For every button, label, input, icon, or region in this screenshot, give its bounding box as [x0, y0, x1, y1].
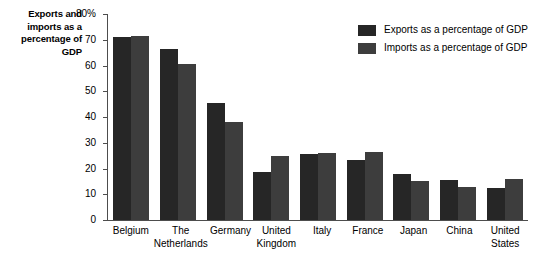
- bar-exports[interactable]: [440, 180, 458, 220]
- y-axis-tick-label: 60: [85, 59, 96, 72]
- y-axis-tick-label: 50: [85, 84, 96, 97]
- y-axis-tick-label: 40: [85, 110, 96, 123]
- bar-imports[interactable]: [318, 153, 336, 220]
- bar-group: [248, 14, 295, 220]
- x-axis-category-label: Germany: [208, 225, 254, 250]
- x-axis-category-label: United States: [482, 225, 528, 250]
- y-axis-tick-label: 0: [90, 213, 96, 226]
- bar-group: [201, 14, 248, 220]
- bar-groups: [108, 14, 528, 220]
- y-axis-tick-label: 20: [85, 162, 96, 175]
- bar-chart-figure: Exports and imports as a percentage of G…: [0, 0, 535, 265]
- bar-imports[interactable]: [178, 64, 196, 220]
- x-axis-category-label: Japan: [391, 225, 437, 250]
- x-axis-category-label: Italy: [299, 225, 345, 250]
- bar-imports[interactable]: [131, 36, 149, 220]
- y-axis-tick-label: 30: [85, 136, 96, 149]
- x-axis-category-label: Belgium: [108, 225, 154, 250]
- bar-imports[interactable]: [225, 122, 243, 220]
- bar-imports[interactable]: [505, 179, 523, 220]
- bar-exports[interactable]: [393, 174, 411, 220]
- x-axis-category-labels: BelgiumThe NetherlandsGermanyUnited King…: [108, 225, 528, 250]
- bar-group: [108, 14, 155, 220]
- bar-imports[interactable]: [458, 187, 476, 220]
- y-axis-tick-label: 80%: [76, 7, 96, 20]
- x-axis-category-label: The Netherlands: [154, 225, 208, 250]
- bar-imports[interactable]: [365, 152, 383, 220]
- bar-exports[interactable]: [487, 188, 505, 220]
- bar-group: [155, 14, 202, 220]
- bar-group: [388, 14, 435, 220]
- bar-group: [295, 14, 342, 220]
- bar-exports[interactable]: [300, 154, 318, 220]
- bar-exports[interactable]: [253, 172, 271, 220]
- bar-group: [341, 14, 388, 220]
- y-axis-tick-label: 70: [85, 33, 96, 46]
- x-axis-category-label: France: [345, 225, 391, 250]
- y-axis-tick: 0: [103, 220, 108, 221]
- x-axis-category-label: United Kingdom: [253, 225, 299, 250]
- bar-exports[interactable]: [160, 49, 178, 220]
- chart-axis-title: Exports and imports as a percentage of G…: [0, 8, 82, 58]
- bar-exports[interactable]: [347, 160, 365, 221]
- plot-area: 80%706050403020100: [108, 14, 528, 220]
- bar-exports[interactable]: [207, 103, 225, 220]
- bar-imports[interactable]: [411, 181, 429, 220]
- bar-imports[interactable]: [271, 156, 289, 220]
- bar-group: [435, 14, 482, 220]
- x-axis-line: [107, 220, 528, 221]
- bar-group: [481, 14, 528, 220]
- y-axis-tick-label: 10: [85, 187, 96, 200]
- x-axis-category-label: China: [437, 225, 483, 250]
- bar-exports[interactable]: [113, 37, 131, 220]
